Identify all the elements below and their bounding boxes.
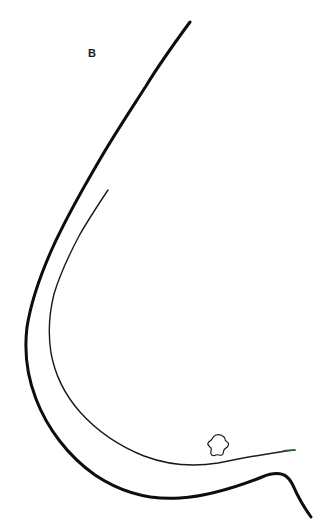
figure-panel: B [0,0,334,525]
figure-background [0,0,334,525]
line-drawing-canvas [0,0,334,525]
panel-label: B [88,47,96,59]
